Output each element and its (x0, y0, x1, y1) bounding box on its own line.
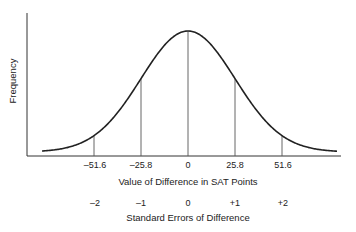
x-tick: 25.8 (226, 160, 244, 170)
se-tick: 0 (185, 198, 190, 208)
se-tick: +1 (230, 198, 240, 208)
x-tick: –25.8 (130, 160, 153, 170)
se-tick: –1 (136, 198, 146, 208)
secondary-x-axis-label: Standard Errors of Difference (126, 212, 249, 223)
y-axis-label: Frequency (7, 64, 18, 104)
sd-lines (94, 31, 282, 156)
normal-curve (42, 31, 337, 151)
x-axis-label: Value of Difference in SAT Points (118, 176, 257, 187)
x-tick: 0 (185, 160, 190, 170)
x-tick: 51.6 (274, 160, 292, 170)
chart-canvas (0, 0, 356, 232)
se-tick: +2 (278, 198, 288, 208)
se-tick: –2 (90, 198, 100, 208)
x-tick: –51.6 (84, 160, 107, 170)
